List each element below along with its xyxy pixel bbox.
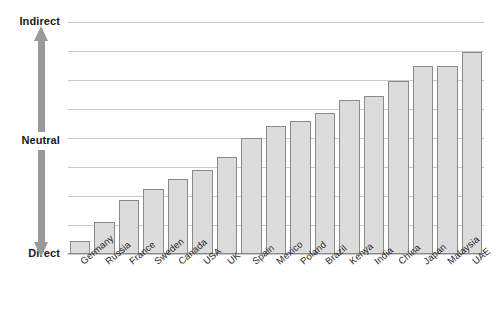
- bar[interactable]: [339, 100, 359, 254]
- bar[interactable]: [462, 52, 482, 254]
- bar[interactable]: [413, 66, 433, 255]
- x-axis-tick-labels: GermanyRussiaFranceSwedenCanadaUSAUKSpai…: [68, 254, 484, 315]
- bar-slot: [460, 22, 484, 254]
- bar-slot: [411, 22, 435, 254]
- bar[interactable]: [388, 81, 408, 254]
- bar[interactable]: [315, 113, 335, 254]
- bar-slot: [92, 22, 116, 254]
- bar[interactable]: [290, 121, 310, 254]
- bar-slot: [362, 22, 386, 254]
- plot-area: [68, 22, 484, 254]
- communication-style-bar-chart: Indirect Neutral Direct GermanyRussiaFra…: [0, 0, 503, 315]
- bar-slot: [215, 22, 239, 254]
- bar[interactable]: [266, 126, 286, 254]
- bar-slot: [288, 22, 312, 254]
- bar[interactable]: [217, 157, 237, 254]
- bar-slot: [435, 22, 459, 254]
- bar-slot: [117, 22, 141, 254]
- arrow-head-down-icon: [34, 242, 48, 257]
- bar-slot: [386, 22, 410, 254]
- bar-slot: [166, 22, 190, 254]
- bar-series: [68, 22, 484, 254]
- vertical-scale-axis: Indirect Neutral Direct: [0, 0, 68, 315]
- arrow-shaft-upper: [38, 40, 45, 132]
- bar-slot: [141, 22, 165, 254]
- bar-slot: [68, 22, 92, 254]
- bar[interactable]: [241, 138, 261, 254]
- bar-slot: [190, 22, 214, 254]
- bar[interactable]: [364, 96, 384, 254]
- arrow-shaft-lower: [38, 150, 45, 242]
- bar-slot: [337, 22, 361, 254]
- bar[interactable]: [437, 66, 457, 255]
- axis-label-neutral: Neutral: [21, 134, 60, 146]
- arrow-head-up-icon: [34, 26, 48, 41]
- bar-slot: [239, 22, 263, 254]
- bar-slot: [313, 22, 337, 254]
- bar-slot: [264, 22, 288, 254]
